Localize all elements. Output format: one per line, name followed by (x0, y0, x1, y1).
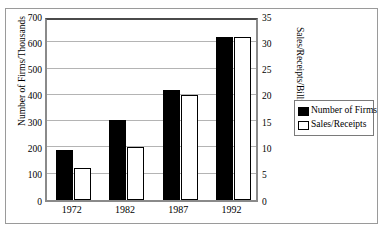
y-axis-right-ticks: 05101520253035 (262, 18, 298, 202)
x-axis-ticks: 1972198219871992 (45, 204, 258, 220)
bar-number-of-firms (109, 120, 126, 200)
bar-number-of-firms (163, 90, 180, 200)
y-tick-label-right: 5 (262, 171, 298, 181)
x-tick-label: 1992 (211, 204, 251, 215)
y-tick-label-right: 35 (262, 14, 298, 24)
y-tick-label-left: 100 (6, 171, 42, 181)
legend-label-sales-receipts: Sales/Receipts (311, 120, 366, 130)
chart-figure: 0100200300400500600700 05101520253035 Nu… (0, 0, 388, 234)
bar-sales-receipts (127, 147, 144, 200)
bar-sales-receipts (234, 37, 251, 200)
x-tick-label: 1987 (158, 204, 198, 215)
x-tick-label: 1972 (52, 204, 92, 215)
bar-number-of-firms (56, 150, 73, 200)
chart-legend: Number of Firms Sales/Receipts (294, 100, 374, 136)
y-tick-label-right: 20 (262, 92, 298, 102)
legend-item-number-of-firms: Number of Firms (298, 104, 370, 118)
legend-swatch-number-of-firms-icon (298, 107, 309, 116)
plot-area (45, 18, 258, 202)
legend-label-number-of-firms: Number of Firms (311, 106, 377, 116)
x-tick-label: 1982 (105, 204, 145, 215)
bar-sales-receipts (74, 168, 91, 200)
y-tick-label-right: 30 (262, 40, 298, 50)
y-tick-label-right: 0 (262, 198, 298, 208)
bar-number-of-firms (216, 37, 233, 200)
y-tick-label-right: 10 (262, 145, 298, 155)
legend-item-sales-receipts: Sales/Receipts (298, 118, 370, 132)
y-tick-label-right: 25 (262, 66, 298, 76)
legend-swatch-sales-receipts-icon (298, 121, 309, 130)
y-tick-label-right: 15 (262, 119, 298, 129)
y-tick-label-left: 0 (6, 198, 42, 208)
y-axis-left-title: Number of Firms/Thousands (17, 0, 27, 163)
bar-sales-receipts (181, 95, 198, 200)
y-axis-right-title: Sales/Receipts/Billions (295, 0, 305, 163)
